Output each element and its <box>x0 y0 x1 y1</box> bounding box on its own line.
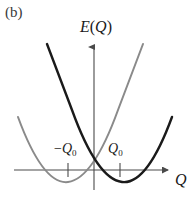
tick-label-neg-q0: −Q0 <box>54 142 77 156</box>
tick-label-neg-sign: − <box>54 141 62 156</box>
x-axis-label: Q <box>175 172 187 188</box>
y-axis-label-close-paren: ) <box>107 18 112 35</box>
tick-label-pos-subscript: 0 <box>118 148 123 158</box>
tick-label-neg-subscript: 0 <box>72 148 77 158</box>
y-axis-label-arg: Q <box>95 18 107 35</box>
panel-label: (b) <box>5 5 23 20</box>
y-axis-label-var: E <box>80 18 90 35</box>
curve-gray-parabola <box>18 44 143 182</box>
tick-label-pos-q0: Q0 <box>108 142 123 156</box>
tick-label-pos-var: Q <box>108 141 118 156</box>
tick-label-neg-var: Q <box>62 141 72 156</box>
y-axis-label: E(Q) <box>80 19 112 35</box>
curve-black-parabola <box>47 44 172 182</box>
figure-panel-b: (b) E(Q) Q −Q0 Q0 <box>0 0 195 204</box>
